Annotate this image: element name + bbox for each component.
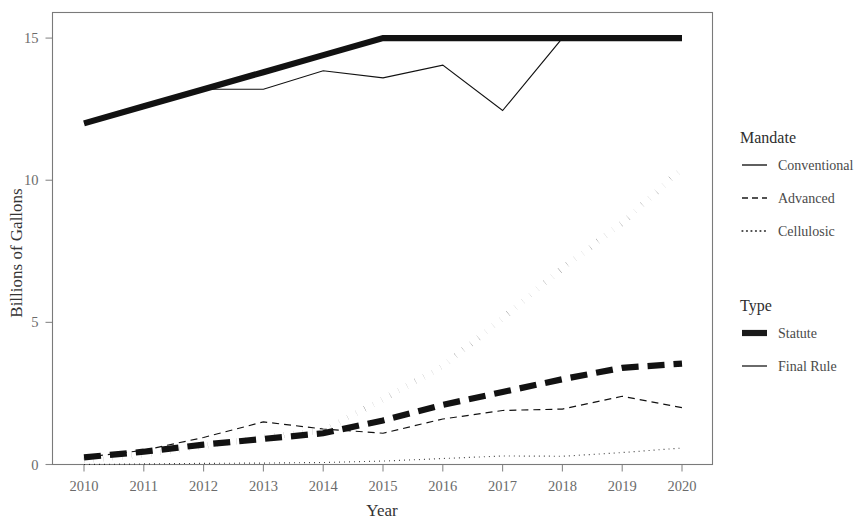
x-tick-label: 2016: [428, 478, 457, 494]
y-tick-label: 10: [24, 172, 39, 188]
legend-label: Conventional: [778, 158, 854, 173]
x-tick-label: 2011: [130, 478, 158, 494]
x-tick-label: 2010: [70, 478, 99, 494]
chart-figure: Billions of Gallons Year 051015 20102011…: [0, 0, 860, 525]
y-tick-label: 5: [31, 314, 38, 330]
x-tick-label: 2012: [189, 478, 218, 494]
x-tick-label: 2020: [668, 478, 697, 494]
x-tick-label: 2019: [608, 478, 637, 494]
y-axis-title: Billions of Gallons: [7, 188, 26, 317]
legend-label: Advanced: [778, 191, 835, 206]
x-tick-label: 2017: [488, 478, 517, 494]
legend-title-mandate: Mandate: [740, 129, 796, 146]
legend-label: Cellulosic: [778, 224, 835, 239]
legend-label: Statute: [778, 326, 817, 341]
figure-background: [0, 0, 860, 525]
y-tick-label: 0: [31, 457, 38, 473]
y-tick-label: 15: [24, 30, 39, 46]
x-tick-label: 2018: [548, 478, 577, 494]
x-axis-title: Year: [366, 501, 398, 520]
x-tick-label: 2015: [369, 478, 398, 494]
x-tick-label: 2014: [309, 478, 339, 494]
x-tick-label: 2013: [249, 478, 278, 494]
legend-title-type: Type: [740, 297, 772, 315]
legend-label: Final Rule: [778, 359, 837, 374]
